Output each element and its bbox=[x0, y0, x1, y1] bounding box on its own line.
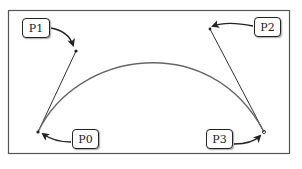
label-p1: P1 bbox=[22, 18, 50, 38]
label-p3: P3 bbox=[206, 129, 233, 149]
point-p1-marker[interactable] bbox=[74, 49, 77, 52]
arrow-p3 bbox=[234, 136, 260, 144]
arrow-p0 bbox=[43, 134, 71, 142]
label-p2: P2 bbox=[254, 17, 281, 37]
point-p0-marker[interactable] bbox=[36, 130, 39, 133]
arrow-p2 bbox=[213, 23, 253, 26]
point-p2-marker[interactable] bbox=[209, 28, 212, 31]
bezier-curve bbox=[38, 63, 264, 132]
arrow-p1 bbox=[51, 28, 73, 45]
label-p0: P0 bbox=[72, 129, 99, 149]
diagram-frame bbox=[9, 11, 290, 154]
